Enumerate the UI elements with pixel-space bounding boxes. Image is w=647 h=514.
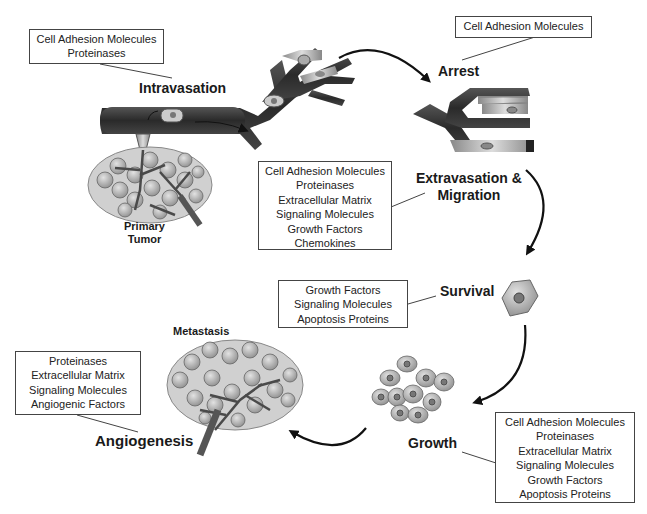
factor-item: Extracellular Matrix [263, 193, 387, 207]
factor-item: Angiogenic Factors [20, 397, 136, 411]
label-line: Tumor [124, 233, 165, 246]
factor-item: Signaling Molecules [500, 458, 630, 472]
factor-item: Signaling Molecules [283, 297, 403, 311]
extravasation-factors-box: Cell Adhesion Molecules Proteinases Extr… [258, 161, 392, 250]
factor-item: Apoptosis Proteins [283, 312, 403, 326]
factor-item: Extracellular Matrix [20, 368, 136, 382]
label-line: Primary [124, 220, 165, 233]
primary-tumor-illustration [88, 147, 212, 225]
factor-item: Proteinases [263, 178, 387, 192]
arrest-factors-box: Cell Adhesion Molecules [455, 16, 592, 38]
stage-label-arrest: Arrest [438, 63, 479, 79]
stage-label-intravasation: Intravasation [139, 80, 226, 96]
stage-label-line: Migration [416, 187, 522, 204]
factor-item: Chemokines [263, 236, 387, 250]
factor-item: Signaling Molecules [20, 383, 136, 397]
stage-label-extravasation: Extravasation & Migration [416, 170, 522, 204]
label-primary-tumor: Primary Tumor [124, 220, 165, 246]
angiogenesis-factors-box: Proteinases Extracellular Matrix Signali… [15, 351, 141, 415]
factor-item: Growth Factors [500, 473, 630, 487]
factor-item: Growth Factors [283, 283, 403, 297]
factor-item: Proteinases [500, 429, 630, 443]
label-metastasis: Metastasis [173, 325, 229, 338]
factor-item: Signaling Molecules [263, 207, 387, 221]
growth-cluster-illustration [372, 356, 454, 423]
factor-item: Proteinases [34, 46, 159, 60]
factor-item: Cell Adhesion Molecules [500, 415, 630, 429]
factor-item: Cell Adhesion Molecules [34, 32, 159, 46]
intravasation-factors-box: Cell Adhesion Molecules Proteinases [29, 29, 164, 64]
factor-item: Apoptosis Proteins [500, 487, 630, 501]
factor-item: Proteinases [20, 354, 136, 368]
arrest-vessel-illustration [413, 88, 534, 152]
factor-item: Extracellular Matrix [500, 444, 630, 458]
survival-factors-box: Growth Factors Signaling Molecules Apopt… [278, 280, 408, 328]
stage-label-angiogenesis: Angiogenesis [95, 432, 193, 449]
stage-label-survival: Survival [440, 283, 494, 299]
factor-item: Cell Adhesion Molecules [460, 19, 587, 33]
stage-label-growth: Growth [408, 435, 457, 451]
stage-label-line: Extravasation & [416, 170, 522, 187]
growth-factors-box: Cell Adhesion Molecules Proteinases Extr… [495, 412, 635, 503]
factor-item: Cell Adhesion Molecules [263, 164, 387, 178]
factor-item: Growth Factors [263, 222, 387, 236]
survival-cell-illustration [502, 280, 538, 316]
